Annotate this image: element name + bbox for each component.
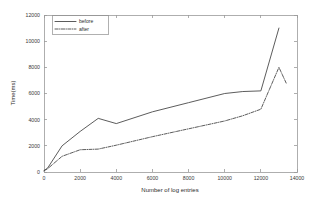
figure-canvas: 02000400060008000100001200014000 0200040… <box>0 0 316 198</box>
x-tick-label: 6000 <box>147 175 159 181</box>
y-tick-label: 0 <box>37 169 40 175</box>
legend: before after <box>52 16 108 35</box>
legend-label-after: after <box>79 26 89 32</box>
legend-label-before: before <box>79 18 93 24</box>
y-tick-label: 8000 <box>28 64 40 70</box>
y-axis-title: Time(ms) <box>10 80 16 105</box>
x-tick-label: 0 <box>43 175 46 181</box>
data-series-group <box>44 28 286 171</box>
x-tick-label: 12000 <box>254 175 269 181</box>
x-tick-label: 10000 <box>217 175 232 181</box>
y-tick-label: 12000 <box>26 12 41 18</box>
line-chart: 02000400060008000100001200014000 0200040… <box>0 0 316 198</box>
series-line-before <box>44 28 279 171</box>
y-axis-tick-labels: 020004000600080001000012000 <box>26 12 41 175</box>
y-tick-label: 6000 <box>28 90 40 96</box>
x-axis-ticks <box>44 15 297 172</box>
x-axis-title: Number of log entries <box>141 187 198 193</box>
plot-frame <box>44 15 297 172</box>
series-line-after <box>44 67 286 170</box>
y-tick-label: 10000 <box>26 38 41 44</box>
x-axis-tick-labels: 02000400060008000100001200014000 <box>43 175 305 181</box>
x-tick-label: 8000 <box>183 175 195 181</box>
x-tick-label: 14000 <box>290 175 305 181</box>
x-tick-label: 4000 <box>111 175 123 181</box>
y-tick-label: 2000 <box>28 143 40 149</box>
y-tick-label: 4000 <box>28 117 40 123</box>
y-axis-ticks <box>44 15 297 172</box>
x-tick-label: 2000 <box>74 175 86 181</box>
